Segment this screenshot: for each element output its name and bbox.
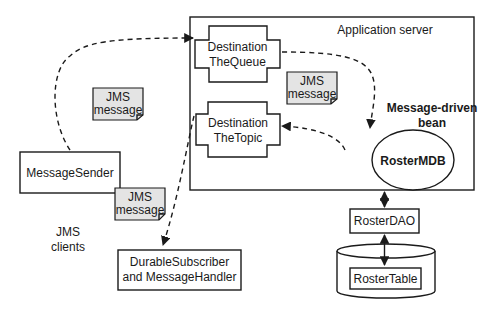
svg-text:JMS: JMS bbox=[106, 90, 130, 104]
roster-mdb[interactable]: RosterMDB bbox=[372, 130, 454, 190]
dao-label: RosterDAO bbox=[354, 214, 415, 228]
jms-message-note: JMS message bbox=[287, 72, 337, 104]
durable-subscriber-box[interactable]: DurableSubscriber and MessageHandler bbox=[118, 250, 241, 290]
roster-table-database[interactable]: RosterTable bbox=[337, 244, 435, 298]
jms-message-note: JMS message bbox=[93, 88, 143, 120]
svg-text:JMS: JMS bbox=[128, 190, 152, 204]
svg-text:message: message bbox=[116, 203, 165, 217]
svg-text:message: message bbox=[94, 103, 143, 117]
mdb-label: RosterMDB bbox=[380, 154, 446, 168]
mdb-to-topic-arrow bbox=[282, 126, 345, 150]
subscriber-label-line1: DurableSubscriber bbox=[130, 255, 229, 269]
subscriber-label-line2: and MessageHandler bbox=[122, 270, 236, 284]
jms-message-note: JMS message bbox=[115, 188, 165, 220]
queue-label-line2: TheQueue bbox=[209, 55, 266, 69]
jms-clients-label-line1: JMS bbox=[56, 225, 80, 239]
destination-queue[interactable]: Destination TheQueue bbox=[195, 26, 280, 82]
queue-label-line1: Destination bbox=[207, 40, 267, 54]
topic-label-line1: Destination bbox=[208, 116, 268, 130]
jms-architecture-diagram: Application server Destination TheQueue … bbox=[0, 0, 489, 311]
mdb-caption-line2: bean bbox=[418, 116, 446, 130]
destination-topic[interactable]: Destination TheTopic bbox=[196, 102, 280, 157]
message-sender-box[interactable]: MessageSender bbox=[20, 152, 120, 193]
svg-text:JMS: JMS bbox=[300, 74, 324, 88]
topic-label-line2: TheTopic bbox=[214, 131, 263, 145]
svg-text:message: message bbox=[288, 87, 337, 101]
mdb-caption-line1: Message-driven bbox=[387, 101, 478, 115]
table-label: RosterTable bbox=[353, 272, 417, 286]
roster-dao-box[interactable]: RosterDAO bbox=[350, 209, 419, 233]
jms-clients-label-line2: clients bbox=[51, 240, 85, 254]
sender-label: MessageSender bbox=[26, 166, 113, 180]
application-server-label: Application server bbox=[337, 23, 432, 37]
